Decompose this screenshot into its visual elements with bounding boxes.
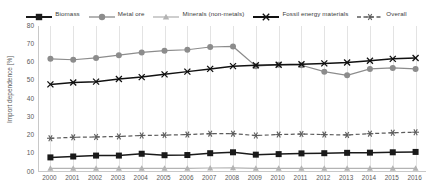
legend-item-fossil-energy-materials[interactable]: Fossil energy materials	[253, 8, 348, 18]
data-point	[367, 131, 374, 137]
data-point	[115, 133, 122, 139]
chart-legend: BiomassMetal oreMinerals (non-metals)Fos…	[0, 4, 433, 22]
data-point	[321, 69, 327, 75]
legend-label: Overall	[386, 10, 406, 17]
legend-item-minerals-non-metals[interactable]: Minerals (non-metals)	[153, 8, 244, 18]
y-axis-tick-label: 10	[27, 150, 34, 157]
data-point	[116, 52, 122, 58]
data-point	[413, 66, 419, 72]
y-axis-tick-label: 50	[27, 77, 34, 84]
series-layer	[39, 26, 427, 172]
legend-label: Biomass	[55, 10, 79, 17]
data-point	[184, 47, 190, 53]
data-point	[344, 132, 351, 138]
legend-label: Fossil energy materials	[282, 10, 348, 17]
data-point	[139, 151, 145, 157]
y-axis-tick-label: 20	[27, 132, 34, 139]
data-point	[162, 48, 168, 54]
data-point	[413, 149, 419, 155]
data-point	[390, 149, 396, 155]
data-point	[344, 150, 350, 156]
y-axis-tick-label: 30	[27, 114, 34, 121]
data-point	[321, 132, 328, 138]
data-point	[47, 135, 54, 141]
data-point	[93, 134, 100, 140]
data-point	[138, 133, 145, 139]
y-axis: Import dependence [%] 001020304050607080	[0, 0, 38, 193]
legend-item-overall[interactable]: Overall	[357, 8, 406, 18]
x-axis: 2000200120022003200420052006200720082009…	[38, 175, 426, 189]
data-point	[184, 152, 190, 158]
data-point	[93, 153, 99, 159]
data-point	[207, 44, 213, 50]
data-point	[139, 49, 145, 55]
y-axis-tick-label: 00	[27, 169, 34, 176]
data-point	[230, 149, 236, 155]
y-axis-tick-label: 40	[27, 96, 34, 103]
data-point	[47, 56, 53, 62]
series-overall	[47, 129, 419, 141]
data-point	[230, 43, 236, 49]
data-point	[412, 129, 419, 135]
data-point	[207, 150, 213, 156]
legend-item-metal-ore[interactable]: Metal ore	[89, 8, 145, 18]
legend-marker-icon	[357, 8, 383, 18]
legend-marker-icon	[89, 8, 115, 18]
data-point	[230, 131, 237, 137]
legend-marker-icon	[153, 8, 179, 18]
data-point	[47, 154, 53, 160]
data-point	[253, 152, 259, 158]
y-axis-title: Import dependence [%]	[6, 35, 13, 145]
data-point	[367, 150, 373, 156]
y-axis-tick-label: 60	[27, 59, 34, 66]
y-axis-tick-label: 80	[27, 23, 34, 30]
data-point	[70, 134, 77, 140]
data-point	[389, 130, 396, 136]
data-point	[116, 153, 122, 159]
data-point	[344, 72, 350, 78]
chart-container: BiomassMetal oreMinerals (non-metals)Fos…	[0, 0, 433, 193]
data-point	[70, 153, 76, 159]
data-point	[93, 55, 99, 61]
data-point	[321, 150, 327, 156]
x-axis-tick-label: 2016	[400, 175, 430, 181]
data-point	[298, 131, 305, 137]
series-minerals-non-metals	[47, 165, 418, 171]
y-axis-tick-label: 70	[27, 41, 34, 48]
data-point	[276, 151, 282, 157]
data-point	[184, 132, 191, 138]
data-point	[70, 57, 76, 63]
data-point	[161, 132, 168, 138]
legend-label: Minerals (non-metals)	[182, 10, 244, 17]
data-point	[275, 132, 282, 138]
data-point	[162, 152, 168, 158]
data-point	[252, 133, 259, 139]
data-point	[367, 66, 373, 72]
series-biomass	[47, 149, 418, 160]
plot-area	[38, 26, 426, 172]
data-point	[298, 150, 304, 156]
legend-marker-icon	[253, 8, 279, 18]
data-point	[207, 131, 214, 137]
legend-label: Metal ore	[118, 10, 145, 17]
data-point	[390, 65, 396, 71]
